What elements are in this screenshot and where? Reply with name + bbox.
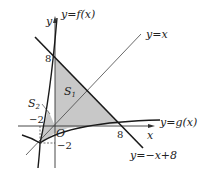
label-line: y=−x+8 [129, 149, 177, 162]
region-s2-label: S2 [28, 97, 41, 111]
x-axis-label: x [147, 129, 154, 142]
tick-y8: 8 [45, 53, 51, 64]
y-axis-label: y [45, 15, 53, 28]
line-y-equals-x [26, 34, 141, 155]
label-identity: y=x [145, 28, 168, 41]
x-axis-arrow [148, 124, 155, 128]
origin-label: O [56, 127, 65, 140]
label-g: y=g(x) [159, 116, 197, 129]
tick-xneg2: −2 [29, 114, 44, 125]
curve-f [38, 18, 57, 168]
tick-x8: 8 [117, 129, 123, 140]
tick-yneg2: −2 [57, 140, 72, 151]
label-f: y=f(x) [60, 8, 95, 21]
diagram-canvas: y x O y=f(x) y=x y=g(x) y=−x+8 8 8 −2 −2… [0, 0, 210, 172]
